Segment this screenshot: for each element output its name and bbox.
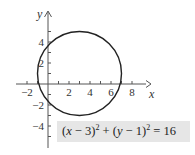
x-tick-label: 4	[87, 86, 93, 98]
x-axis-label: x	[148, 87, 155, 101]
y-axis-label: y	[36, 7, 43, 21]
y-tick-label: −4	[32, 120, 44, 132]
y-tick-label: 2	[39, 57, 45, 69]
equation-label: (x − 3)2 + (y − 1)2 = 16	[62, 123, 176, 139]
x-tick-label: 6	[108, 86, 114, 98]
x-tick-label: 2	[66, 86, 72, 98]
x-tick-label: −2	[21, 86, 33, 98]
x-tick-label: 8	[129, 86, 135, 98]
y-tick-label: −2	[32, 99, 44, 111]
y-tick-label: 4	[39, 36, 45, 48]
